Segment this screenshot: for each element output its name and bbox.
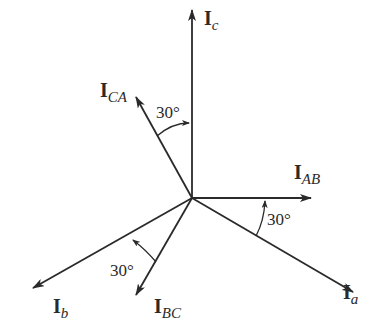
label-ib-sub: b bbox=[61, 305, 69, 321]
label-ic: Ic bbox=[204, 8, 218, 28]
label-ica: ICA bbox=[100, 80, 127, 100]
angle-arc-ab-a bbox=[256, 201, 265, 236]
label-ic-sub: c bbox=[212, 17, 219, 33]
label-iab-sub: AB bbox=[302, 171, 320, 187]
label-ia-main: I bbox=[343, 281, 351, 303]
angle-arc-bc-b bbox=[133, 240, 156, 262]
label-iab: IAB bbox=[294, 162, 320, 182]
phasor-ibc-arrow bbox=[136, 198, 192, 295]
label-ia: Ia bbox=[343, 282, 358, 302]
label-ica-sub: CA bbox=[108, 89, 127, 105]
label-ibc: IBC bbox=[154, 296, 181, 316]
label-ic-main: I bbox=[204, 7, 212, 29]
angle-arc-ca-c bbox=[157, 123, 189, 136]
label-ibc-sub: BC bbox=[162, 305, 181, 321]
label-ib-main: I bbox=[53, 295, 61, 317]
label-ibc-main: I bbox=[154, 295, 162, 317]
angle-label-bc-b: 30° bbox=[110, 262, 134, 279]
angle-label-ca-c: 30° bbox=[156, 104, 180, 121]
label-iab-main: I bbox=[294, 161, 302, 183]
label-ia-sub: a bbox=[351, 291, 359, 307]
angle-label-ab-a: 30° bbox=[267, 211, 291, 228]
label-ib: Ib bbox=[53, 296, 68, 316]
label-ica-main: I bbox=[100, 79, 108, 101]
